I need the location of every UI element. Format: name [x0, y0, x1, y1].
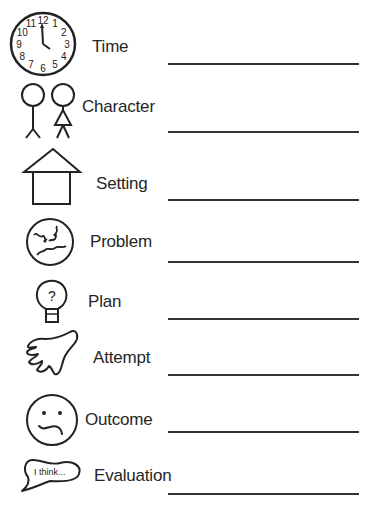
- clock-numeral: 3: [64, 39, 70, 50]
- label-attempt: Attempt: [93, 349, 150, 366]
- clock-icon: 121234567891011: [9, 11, 79, 79]
- answer-line-evaluation[interactable]: [168, 493, 359, 495]
- angry-face-icon: [25, 217, 77, 269]
- answer-line-setting[interactable]: [168, 199, 359, 201]
- hand-icon: [25, 330, 81, 378]
- bubble-text: I think...: [34, 467, 66, 477]
- clock-numeral: 7: [28, 59, 34, 70]
- house-icon: [22, 147, 82, 207]
- answer-line-problem[interactable]: [168, 261, 359, 263]
- label-setting: Setting: [96, 175, 148, 192]
- svg-text:?: ?: [48, 288, 56, 304]
- answer-line-attempt[interactable]: [168, 374, 359, 376]
- clock-numeral: 12: [37, 15, 49, 26]
- label-evaluation: Evaluation: [94, 467, 171, 484]
- label-time: Time: [92, 38, 128, 55]
- clock-numeral: 1: [52, 18, 58, 29]
- answer-line-character[interactable]: [168, 131, 359, 133]
- answer-line-time[interactable]: [168, 63, 359, 65]
- clock-numeral: 2: [61, 27, 67, 38]
- speech-bubble-icon: I think...: [20, 457, 84, 497]
- clock-numeral: 11: [26, 18, 37, 29]
- stick-figures-icon: [18, 82, 78, 142]
- confused-face-icon: [26, 394, 80, 448]
- label-plan: Plan: [88, 293, 121, 310]
- clock-numeral: 8: [19, 51, 25, 62]
- label-character: Character: [82, 98, 155, 115]
- lightbulb-question-icon: ?: [34, 279, 70, 325]
- clock-numeral: 5: [52, 59, 58, 70]
- answer-line-plan[interactable]: [168, 318, 359, 320]
- clock-numeral: 4: [61, 51, 67, 62]
- answer-line-outcome[interactable]: [168, 431, 359, 433]
- clock-numeral: 9: [16, 39, 22, 50]
- clock-numeral: 6: [40, 63, 46, 74]
- label-outcome: Outcome: [85, 411, 153, 428]
- label-problem: Problem: [90, 233, 152, 250]
